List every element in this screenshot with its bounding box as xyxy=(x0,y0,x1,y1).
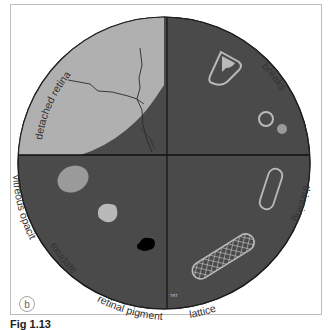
operculum-lesion xyxy=(277,124,287,134)
round-hole-lesion xyxy=(259,112,273,126)
svg-text:b: b xyxy=(24,299,30,310)
retina-chart-diagram: TRT detached retina breaks thinning latt… xyxy=(0,0,328,330)
trt-tag: TRT xyxy=(168,292,180,298)
figure-caption: Fig 1.13 xyxy=(10,318,51,330)
svg-text:TRT: TRT xyxy=(170,293,178,298)
panel-letter-badge: b xyxy=(20,297,35,312)
